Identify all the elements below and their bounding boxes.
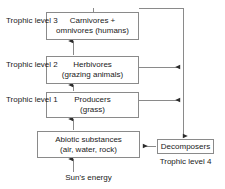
node-herbivores-line1: Herbivores <box>73 60 112 70</box>
node-decomposers: Decomposers <box>157 139 214 154</box>
node-herbivores: Herbivores (grazing animals) <box>46 56 139 84</box>
label-trophic-level-1: Trophic level 1 <box>6 95 58 105</box>
node-herbivores-line2: (grazing animals) <box>62 70 123 80</box>
node-carnivores-line1: Carnivores + <box>70 16 116 26</box>
label-trophic-level-3-line2: level 3 <box>35 16 58 25</box>
flow-carnivores-to-decomposers <box>139 8 183 136</box>
label-trophic-level-2-line2: level 2 <box>35 60 58 69</box>
label-trophic-level-4-line1: Trophic <box>160 157 186 166</box>
node-abiotic-line1: Abiotic substances <box>55 135 122 145</box>
label-trophic-level-1-line1: Trophic <box>6 95 32 104</box>
node-carnivores: Carnivores + omnivores (humans) <box>46 12 139 40</box>
label-trophic-level-3: Trophic level 3 <box>6 16 58 26</box>
label-trophic-level-2-line1: Trophic <box>6 60 32 69</box>
node-carnivores-line2: omnivores (humans) <box>56 26 129 36</box>
label-trophic-level-3-line1: Trophic <box>6 16 32 25</box>
label-trophic-level-4-line2: level 4 <box>188 157 211 166</box>
node-abiotic-line2: (air, water, rock) <box>60 145 117 155</box>
node-producers-line2: (grass) <box>80 105 105 115</box>
node-decomposers-line1: Decomposers <box>161 142 210 152</box>
label-trophic-level-2: Trophic level 2 <box>6 60 58 70</box>
node-producers: Producers (grass) <box>46 92 139 118</box>
node-producers-line1: Producers <box>74 95 110 105</box>
label-suns-energy: Sun's energy <box>35 173 142 183</box>
label-trophic-level-4: Trophic level 4 <box>157 157 214 167</box>
node-abiotic-substances: Abiotic substances (air, water, rock) <box>37 131 140 158</box>
label-trophic-level-1-line2: level 1 <box>35 95 58 104</box>
energy-flow-diagram: Carnivores + omnivores (humans) Herbivor… <box>0 0 225 189</box>
